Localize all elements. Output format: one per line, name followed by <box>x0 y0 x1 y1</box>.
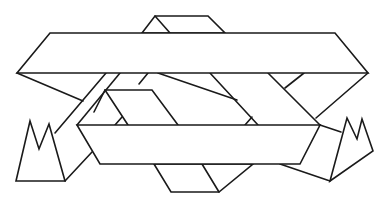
center-diagonal-a <box>139 73 148 84</box>
center-diagonal-b <box>158 73 237 100</box>
lower-box <box>77 125 320 164</box>
inner-slab-tick <box>115 117 122 125</box>
tangram-diagram <box>0 0 388 205</box>
lower-strut-bottom <box>65 152 92 181</box>
upper-band <box>17 33 368 73</box>
right-diagonal-b <box>285 73 304 88</box>
bottom-parallelogram <box>154 164 253 192</box>
inner-slab-top <box>94 90 178 125</box>
right-lower-edge <box>280 164 330 181</box>
right-crown <box>330 118 373 181</box>
center-tick <box>245 117 252 125</box>
right-diagonal-c <box>316 73 368 118</box>
inner-slab-left <box>105 90 128 125</box>
right-connector <box>320 125 341 132</box>
left-diagonal-outer <box>17 73 83 101</box>
top-trapezoid <box>142 16 225 33</box>
